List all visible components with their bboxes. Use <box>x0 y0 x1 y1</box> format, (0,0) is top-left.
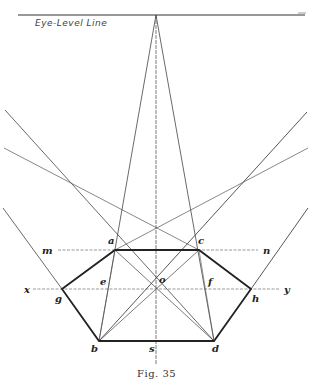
perspective-diagram: Eye-Level Line a c m n x y g h e f o b d… <box>0 0 312 383</box>
label-g: g <box>55 293 62 304</box>
side-line-left <box>3 208 62 289</box>
label-n: n <box>263 245 270 256</box>
label-c: c <box>198 235 204 246</box>
diagonal-right-upper <box>99 112 307 341</box>
label-h: h <box>252 293 259 304</box>
vp-line-right <box>156 15 214 341</box>
inner-diagonal-cb <box>99 250 199 341</box>
diagonal-right-lower <box>115 148 308 250</box>
label-e: e <box>100 276 106 287</box>
label-o: o <box>159 274 166 285</box>
side-line-right <box>251 208 308 289</box>
diagonal-left-lower <box>4 148 199 250</box>
diagonal-left-upper <box>5 110 214 341</box>
label-m: m <box>42 245 53 256</box>
label-s: s <box>149 343 155 354</box>
label-d: d <box>212 343 219 354</box>
hexagon <box>62 250 251 341</box>
figure-caption: Fig. 35 <box>137 368 176 379</box>
label-f: f <box>207 276 214 287</box>
label-a: a <box>108 235 114 246</box>
label-b: b <box>91 343 98 354</box>
eye-level-label: Eye-Level Line <box>35 18 107 28</box>
label-y: y <box>283 284 291 295</box>
line-a-b <box>99 250 115 341</box>
inner-diagonal-ad <box>115 250 214 341</box>
label-x: x <box>23 284 31 295</box>
